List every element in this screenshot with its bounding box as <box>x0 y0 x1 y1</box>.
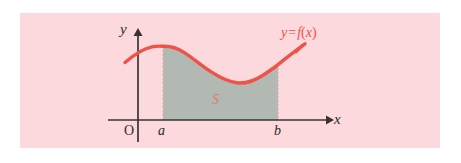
upper-bound-label-b: b <box>274 124 281 138</box>
origin-label: O <box>124 124 134 138</box>
y-axis-label: y <box>120 22 127 37</box>
figure-container: y x O a b S y=f(x) <box>0 0 461 163</box>
x-axis-arrow-icon <box>326 116 334 125</box>
function-label-close-paren: ) <box>312 25 317 40</box>
function-label: y=f(x) <box>281 26 317 40</box>
y-axis <box>134 28 143 142</box>
region-label-S: S <box>212 93 219 107</box>
function-label-operator: = <box>287 25 297 40</box>
x-axis-label: x <box>334 112 341 127</box>
lower-bound-label-a: a <box>158 124 165 138</box>
shaded-region-S <box>163 46 278 120</box>
y-axis-arrow-icon <box>134 28 143 36</box>
plot-canvas <box>0 0 461 163</box>
